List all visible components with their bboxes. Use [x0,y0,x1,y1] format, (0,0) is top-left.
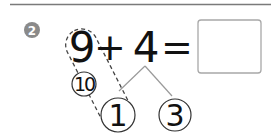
part-circle-2: 3 [159,98,191,133]
part-2-value: 3 [165,98,184,133]
problem-number-badge: 2 [24,22,40,38]
make-ten-circle: 10 [72,72,96,96]
part-circle-1: 1 [101,98,135,133]
term2: 4 [133,23,160,72]
plus-operator: + [94,25,126,69]
equals-sign: = [161,25,193,69]
problem-number: 2 [28,24,36,38]
part-1-value: 1 [108,98,127,133]
make-ten-label: 10 [74,73,95,95]
term1: 9 [69,23,96,72]
answer-box[interactable] [198,20,261,73]
make-ten-worksheet: 2 9 + 4 = 10 1 3 [0,0,271,138]
